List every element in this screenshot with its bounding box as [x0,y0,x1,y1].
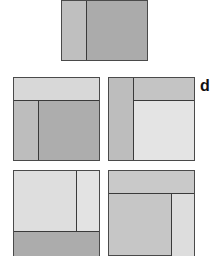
panel-bottom-right [108,170,195,256]
panel-middle-right-hdivider [134,100,194,101]
panel-bottom-right-top-band [109,171,194,193]
panel-bottom-left-right-strip [76,171,99,231]
panel-middle-left-top-band [14,78,99,100]
panel-bottom-left-bottom-band [14,232,99,256]
panel-middle-right [108,77,195,161]
panel-bottom-left-vdivider [76,171,77,231]
panel-top-left-strip [62,1,86,60]
panel-middle-right-left-strip [109,78,133,160]
panel-middle-left-left-strip [14,101,38,160]
panel-top [61,0,148,61]
panel-bottom-right-right-strip [172,194,194,256]
panel-label: d [200,78,210,94]
panel-bottom-left [13,170,100,256]
panel-middle-right-top-band [134,78,194,100]
panel-middle-left-vdivider [38,101,39,160]
panel-middle-left [13,77,100,161]
panel-top-divider [86,1,87,60]
